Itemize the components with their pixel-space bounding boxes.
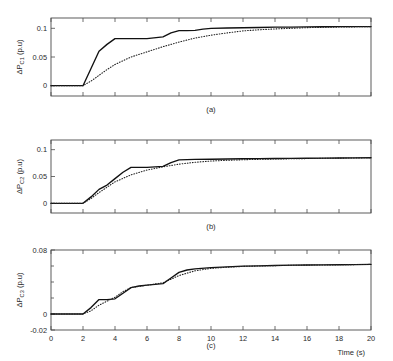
y-tick-label: 0 xyxy=(43,199,47,208)
series-solid xyxy=(51,158,371,204)
y-tick-label: 0.08 xyxy=(33,246,47,255)
x-tick-label: 6 xyxy=(145,334,149,343)
y-tick-label: 0.1 xyxy=(37,145,47,154)
y-axis-title: ΔPC2 (p.u) xyxy=(15,159,25,195)
series-solid xyxy=(51,264,371,314)
x-tick-label: 0 xyxy=(49,334,53,343)
y-tick-label: 0 xyxy=(43,81,47,90)
x-tick-label: 10 xyxy=(207,334,215,343)
x-tick-label: 16 xyxy=(303,334,311,343)
x-tick-label: 20 xyxy=(367,334,375,343)
x-axis-title: Time (s) xyxy=(337,348,365,357)
x-tick-label: 4 xyxy=(113,334,117,343)
panel-c: -0.0200.08ΔPC3 (p.u) xyxy=(15,246,371,335)
panel-b: 00.050.1ΔPC2 (p.u) xyxy=(15,140,371,213)
panel-caption-b: (b) xyxy=(206,222,216,231)
y-tick-label: 0.1 xyxy=(37,24,47,33)
x-tick-label: 8 xyxy=(177,334,181,343)
series-dotted xyxy=(51,264,371,314)
x-tick-label: 18 xyxy=(335,334,343,343)
y-tick-label: -0.02 xyxy=(30,326,47,335)
figure-container: 00.050.1ΔPC1 (p.u)(a)00.050.1ΔPC2 (p.u)(… xyxy=(0,0,393,361)
series-solid xyxy=(51,27,371,86)
plot-frame xyxy=(51,250,371,330)
y-axis-title: ΔPC3 (p.u) xyxy=(15,272,25,308)
y-tick-label: 0 xyxy=(43,310,47,319)
x-tick-label: 14 xyxy=(271,334,279,343)
panel-a: 00.050.1ΔPC1 (p.u) xyxy=(15,18,371,96)
y-tick-label: 0.05 xyxy=(33,53,47,62)
x-tick-label: 12 xyxy=(239,334,247,343)
x-tick-label: 2 xyxy=(81,334,85,343)
series-dotted xyxy=(51,158,371,204)
panel-caption-a: (a) xyxy=(206,105,216,114)
series-dotted xyxy=(51,27,371,86)
plot-frame xyxy=(51,140,371,213)
y-axis-title: ΔPC1 (p.u) xyxy=(15,39,25,75)
three-panel-line-chart: 00.050.1ΔPC1 (p.u)(a)00.050.1ΔPC2 (p.u)(… xyxy=(0,0,393,361)
plot-frame xyxy=(51,18,371,96)
y-tick-label: 0.05 xyxy=(33,172,47,181)
